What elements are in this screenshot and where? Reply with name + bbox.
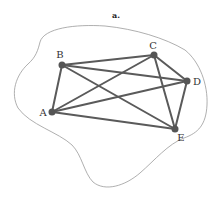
node-d <box>184 78 191 85</box>
edge-a-e <box>52 112 175 129</box>
node-label-b: B <box>56 49 63 60</box>
node-label-d: D <box>193 76 201 87</box>
node-b <box>59 62 66 69</box>
node-label-a: A <box>38 107 47 118</box>
figure-title: a. <box>112 10 120 20</box>
node-label-c: C <box>149 40 157 51</box>
node-c <box>151 52 158 59</box>
edge-group <box>52 55 187 129</box>
node-a <box>49 109 56 116</box>
complete-graph-diagram: a. ABCDE <box>0 0 218 204</box>
edge-d-e <box>175 81 187 129</box>
node-label-e: E <box>177 132 184 143</box>
node-group: ABCDE <box>38 40 201 143</box>
edge-a-b <box>52 65 62 112</box>
